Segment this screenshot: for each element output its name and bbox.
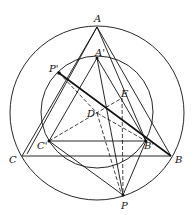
label-e: E: [120, 88, 129, 99]
label-b: B: [174, 154, 182, 165]
line-c-prime-to-p: [49, 141, 123, 195]
label-c: C: [9, 154, 17, 165]
line-p-prime-to-b: [59, 73, 171, 156]
line-a-to-b-prime: [97, 27, 146, 141]
label-a: A: [93, 13, 101, 24]
label-a-prime: A': [94, 47, 105, 58]
dashed-c-prime-to-e: [49, 98, 122, 141]
label-d: D: [86, 108, 95, 119]
dashed-p-prime-to-d: [59, 73, 97, 113]
label-b-prime: B': [143, 140, 154, 151]
point-p: [122, 194, 125, 197]
point-c-prime: [48, 140, 51, 143]
triangle-a-prime-b-prime-c-prime: [49, 58, 146, 141]
dashed-e-to-p: [122, 98, 123, 195]
label-p-prime: P': [48, 63, 58, 74]
dashed-d-to-p: [97, 113, 121, 193]
geometry-diagram: A A' P' E D C' B' C B P: [0, 0, 195, 215]
line-a-to-c-inner: [27, 27, 97, 154]
label-c-prime: C': [37, 140, 47, 151]
label-p: P: [120, 200, 128, 211]
